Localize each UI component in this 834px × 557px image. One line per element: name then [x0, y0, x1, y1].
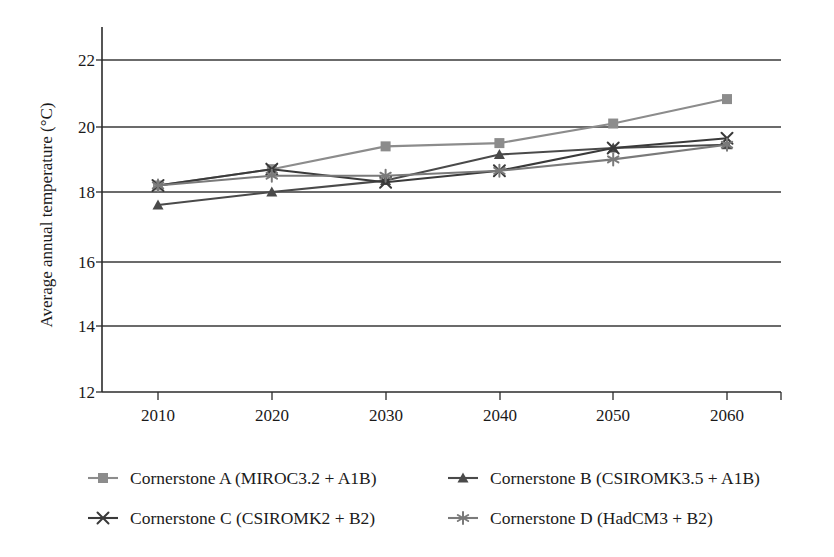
legend-item-c[interactable]: Cornerstone C (CSIROMK2 + B2) — [88, 508, 375, 528]
legend-label: Cornerstone D (HadCM3 + B2) — [490, 508, 713, 528]
x-tick-label: 2030 — [369, 406, 403, 425]
legend-label: Cornerstone B (CSIROMK3.5 + A1B) — [490, 468, 760, 488]
y-tick-label: 16 — [78, 253, 95, 272]
y-tick-label: 20 — [78, 118, 95, 137]
line-chart: Average annual temperature (°C) 22 20 18… — [0, 0, 834, 557]
legend-label: Cornerstone A (MIROC3.2 + A1B) — [130, 468, 377, 488]
y-tick-label: 12 — [78, 383, 95, 402]
y-tick-label: 22 — [78, 51, 95, 70]
square-marker — [98, 473, 108, 483]
y-tick-labels: 22 20 18 16 14 12 — [78, 51, 96, 402]
y-axis-title: Average annual temperature (°C) — [37, 102, 56, 327]
x-tick-label: 2020 — [255, 406, 289, 425]
x-tick-label: 2060 — [710, 406, 744, 425]
square-marker — [722, 94, 732, 104]
legend-item-b[interactable]: Cornerstone B (CSIROMK3.5 + A1B) — [448, 468, 760, 488]
legend-label: Cornerstone C (CSIROMK2 + B2) — [130, 508, 375, 528]
x-tick-label: 2050 — [596, 406, 630, 425]
x-tick-label: 2010 — [141, 406, 175, 425]
x-tick-labels: 2010 2020 2030 2040 2050 2060 — [141, 406, 744, 425]
y-tick-label: 14 — [78, 317, 96, 336]
series-line — [158, 145, 727, 205]
gridlines — [102, 60, 781, 326]
x-tick-label: 2040 — [483, 406, 517, 425]
square-marker — [608, 119, 618, 129]
chart-legend: Cornerstone A (MIROC3.2 + A1B)Cornerston… — [88, 468, 760, 528]
x-tick-marks — [158, 392, 781, 400]
chart-figure: Average annual temperature (°C) 22 20 18… — [0, 0, 834, 557]
square-marker — [494, 138, 504, 148]
square-marker — [381, 141, 391, 151]
y-tick-label: 18 — [78, 183, 95, 202]
series-c — [153, 133, 733, 191]
series-line — [158, 145, 727, 186]
legend-item-a[interactable]: Cornerstone A (MIROC3.2 + A1B) — [88, 468, 377, 488]
y-tick-marks — [96, 60, 102, 392]
legend-item-d[interactable]: Cornerstone D (HadCM3 + B2) — [448, 508, 713, 528]
